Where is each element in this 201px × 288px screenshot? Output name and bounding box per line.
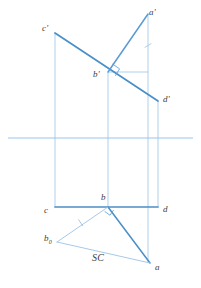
label-b-zero: b0 xyxy=(44,234,52,245)
segment-b-b-zero xyxy=(57,207,108,242)
right-angle-mark-b xyxy=(105,210,114,215)
label-c-prime: c' xyxy=(42,24,48,33)
label-d-prime: d' xyxy=(163,95,170,104)
tick-mark-lower xyxy=(79,220,83,227)
label-sc: SC xyxy=(92,253,104,263)
label-a: a xyxy=(155,263,160,272)
label-a-prime: a' xyxy=(149,8,156,17)
segment-a-prime-b-prime xyxy=(108,14,148,72)
label-c: c xyxy=(44,206,48,215)
geometry-canvas xyxy=(0,0,201,288)
label-b: b xyxy=(101,193,106,202)
segment-c-prime-d-prime xyxy=(55,33,158,101)
label-d: d xyxy=(163,205,168,214)
label-b-zero-subscript: 0 xyxy=(49,239,52,245)
geometry-drawing: a' c' b' d' b c d a b0 SC xyxy=(0,0,201,288)
label-b-prime: b' xyxy=(93,70,100,79)
